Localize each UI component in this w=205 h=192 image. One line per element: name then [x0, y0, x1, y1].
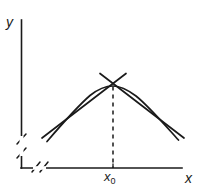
figure-root: y x x0: [0, 0, 205, 192]
x-axis-label: x: [185, 171, 192, 185]
x0-tick-label-subscript: 0: [111, 176, 116, 186]
x0-tick-label: x0: [104, 170, 116, 186]
x-axis-break-gap: [33, 166, 46, 170]
y-axis-break-gap: [20, 136, 24, 156]
plot-canvas: [0, 0, 205, 192]
y-axis-label: y: [6, 15, 13, 29]
